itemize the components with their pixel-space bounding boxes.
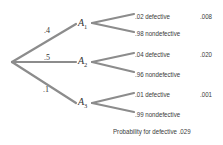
branch-a2-defective <box>92 53 134 62</box>
branch-a3-defective <box>92 93 134 103</box>
tree-lines <box>0 0 223 145</box>
branch-root-a3 <box>12 62 76 103</box>
outcome-a1-nondefective: .98 nondefective <box>135 30 180 38</box>
outcome-a2-nondefective: .96 nondefective <box>135 71 180 79</box>
prob-a2: .5 <box>44 54 50 62</box>
joint-a2-defective: .020 <box>200 51 212 59</box>
branch-a1-nondefective <box>92 23 134 32</box>
branch-a2-nondefective <box>92 62 134 72</box>
outcome-a2-defective: .04 defective <box>135 51 170 59</box>
prob-a3: .1 <box>43 86 49 94</box>
total-defective-probability: Probability for defective .029 <box>113 128 191 136</box>
node-a1: A1 <box>78 18 87 31</box>
prob-a1: .4 <box>44 27 50 35</box>
outcome-a3-defective: .01 defective <box>135 91 170 99</box>
joint-a3-defective: .001 <box>200 91 212 99</box>
outcome-a3-nondefective: .99 nondefective <box>135 111 180 119</box>
node-a2: A2 <box>78 56 87 69</box>
node-a3: A3 <box>78 97 87 110</box>
joint-a1-defective: .008 <box>200 13 212 21</box>
branch-a1-defective <box>92 14 134 23</box>
outcome-a1-defective: .02 defective <box>135 13 170 21</box>
branch-a3-nondefective <box>92 103 134 112</box>
